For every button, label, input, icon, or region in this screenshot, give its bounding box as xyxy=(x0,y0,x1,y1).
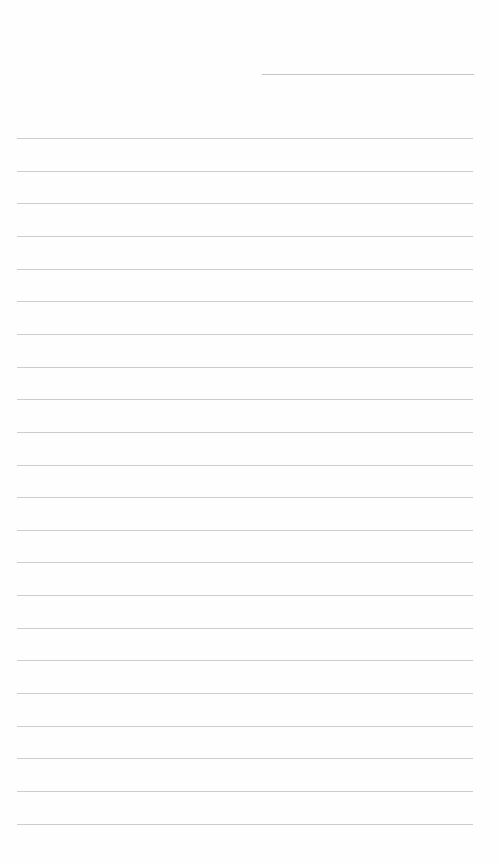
ruled-line xyxy=(17,269,473,270)
ruled-line xyxy=(17,367,473,368)
ruled-line xyxy=(17,334,473,335)
ruled-line xyxy=(17,791,473,792)
ruled-page xyxy=(0,0,499,864)
date-line xyxy=(262,74,474,75)
ruled-line xyxy=(17,660,473,661)
ruled-line xyxy=(17,497,473,498)
ruled-line xyxy=(17,203,473,204)
ruled-line xyxy=(17,236,473,237)
ruled-line xyxy=(17,171,473,172)
ruled-line xyxy=(17,628,473,629)
ruled-line xyxy=(17,465,473,466)
ruled-line xyxy=(17,399,473,400)
ruled-line xyxy=(17,595,473,596)
ruled-line xyxy=(17,693,473,694)
ruled-line xyxy=(17,432,473,433)
ruled-line xyxy=(17,530,473,531)
ruled-line xyxy=(17,726,473,727)
ruled-line xyxy=(17,824,473,825)
ruled-line xyxy=(17,758,473,759)
ruled-line xyxy=(17,562,473,563)
ruled-line xyxy=(17,301,473,302)
date-field-value[interactable] xyxy=(262,56,474,72)
ruled-line xyxy=(17,138,473,139)
